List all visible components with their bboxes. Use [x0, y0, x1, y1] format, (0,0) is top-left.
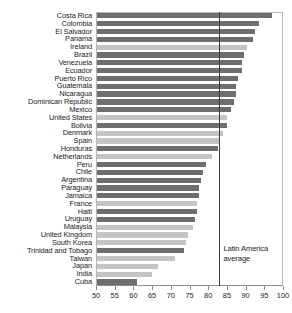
bar-row: Denmark [0, 129, 292, 137]
x-tick-mark [115, 286, 116, 290]
bar-row: India [0, 270, 292, 278]
bar [97, 76, 238, 81]
bar-row: Ireland [0, 43, 292, 51]
x-tick-mark [227, 286, 228, 290]
bar-chart: Costa RicaColombiaEl SalvadorPanamaIrela… [0, 0, 292, 313]
bar-row: Costa Rica [0, 12, 292, 20]
bar-row: United States [0, 114, 292, 122]
bar [97, 217, 195, 222]
bar [97, 99, 234, 104]
latin-america-average-label: Latin America average [223, 244, 268, 264]
bar [97, 272, 152, 277]
bar-row: Chile [0, 169, 292, 177]
bar-row: Uruguay [0, 216, 292, 224]
bar [97, 225, 193, 230]
bar [97, 29, 255, 34]
bar [97, 154, 212, 159]
x-axis-tick-marks [96, 286, 283, 290]
bar-row: El Salvador [0, 28, 292, 36]
x-tick-label: 80 [204, 291, 212, 300]
bar [97, 37, 253, 42]
x-tick-label: 55 [111, 291, 119, 300]
x-tick-label: 65 [148, 291, 156, 300]
x-tick-mark [208, 286, 209, 290]
bar [97, 13, 272, 18]
bar-row: Paraguay [0, 184, 292, 192]
bar-row: Netherlands [0, 153, 292, 161]
bar [97, 170, 203, 175]
x-tick-mark [246, 286, 247, 290]
bar [97, 84, 236, 89]
bar [97, 162, 206, 167]
bar [97, 279, 137, 284]
bar [97, 21, 259, 26]
bar [97, 146, 218, 151]
bar-row: France [0, 200, 292, 208]
bar [97, 45, 247, 50]
bar [97, 264, 158, 269]
x-tick-mark [152, 286, 153, 290]
bar [97, 52, 244, 57]
x-tick-label: 75 [185, 291, 193, 300]
bar-row: Haiti [0, 208, 292, 216]
bar [97, 193, 199, 198]
bar [97, 131, 223, 136]
bar-row: Mexico [0, 106, 292, 114]
bar [97, 115, 227, 120]
bar-row: Guatemala [0, 82, 292, 90]
x-tick-mark [190, 286, 191, 290]
x-tick-mark [283, 286, 284, 290]
x-tick-label: 95 [260, 291, 268, 300]
bar [97, 185, 199, 190]
bar-row: Cuba [0, 278, 292, 286]
x-tick-label: 85 [223, 291, 231, 300]
bar [97, 256, 175, 261]
bar-row: Argentina [0, 176, 292, 184]
bar-row: Panama [0, 35, 292, 43]
bar [97, 91, 236, 96]
bar-row: Colombia [0, 20, 292, 28]
bar-row: Jamaica [0, 192, 292, 200]
bar [97, 107, 231, 112]
x-tick-label: 100 [277, 291, 289, 300]
bar [97, 201, 197, 206]
x-tick-mark [264, 286, 265, 290]
bar [97, 123, 227, 128]
x-tick-label: 90 [241, 291, 249, 300]
bar [97, 178, 201, 183]
bar-row: Peru [0, 161, 292, 169]
bar-row: Honduras [0, 145, 292, 153]
bar-row: Dominican Republic [0, 98, 292, 106]
bar [97, 209, 197, 214]
bar-row: Brazil [0, 51, 292, 59]
bar-row: Puerto Rico [0, 75, 292, 83]
bar [97, 240, 186, 245]
bar-row: Venezuela [0, 59, 292, 67]
bar-row: Bolivia [0, 122, 292, 130]
bar [97, 138, 219, 143]
bar-row: Spain [0, 137, 292, 145]
latin-america-average-line [219, 12, 220, 286]
bar-row: United Kingdom [0, 231, 292, 239]
x-tick-mark [133, 286, 134, 290]
x-tick-mark [171, 286, 172, 290]
bar-row: Ecuador [0, 67, 292, 75]
bar [97, 248, 184, 253]
bar [97, 232, 188, 237]
x-axis-tick-labels: 50556065707580859095100 [96, 291, 283, 303]
bar-category-label: Cuba [75, 278, 92, 286]
x-tick-label: 60 [129, 291, 137, 300]
x-tick-label: 70 [167, 291, 175, 300]
x-tick-mark [96, 286, 97, 290]
x-tick-label: 50 [92, 291, 100, 300]
